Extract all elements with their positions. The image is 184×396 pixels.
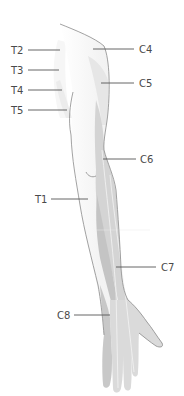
label-t1: T1 — [34, 194, 47, 205]
label-t5: T5 — [10, 105, 23, 116]
label-c7: C7 — [161, 262, 174, 273]
label-c5: C5 — [139, 78, 152, 89]
label-c4: C4 — [139, 44, 152, 55]
label-t4: T4 — [10, 85, 23, 96]
label-c6: C6 — [140, 154, 153, 165]
label-c8: C8 — [57, 310, 70, 321]
label-t2: T2 — [10, 45, 23, 56]
label-t3: T3 — [10, 65, 23, 76]
dermatome-diagram: T2 T3 T4 T5 C4 C5 C6 T1 C7 C8 — [0, 0, 184, 396]
